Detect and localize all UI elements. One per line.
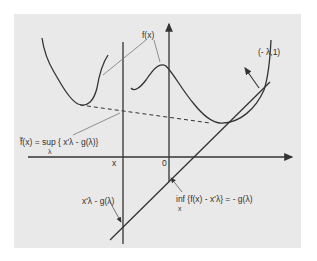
inf-formula: inf {f(x) - x'λ} = - g(λ) xyxy=(176,194,253,204)
conjugate-formula: f̃(x) = sup { x'λ - g(λ)} xyxy=(19,137,99,147)
dashed-connector xyxy=(80,105,210,123)
normal-vector-label: (- λ,1) xyxy=(258,47,280,57)
fx-curve-left xyxy=(42,38,108,105)
fx-curve-right xyxy=(131,40,271,123)
fx-leader-left xyxy=(103,40,146,75)
conjugate-leader xyxy=(73,113,120,135)
line-label: x'λ - g(λ) xyxy=(82,196,114,206)
origin-label: 0 xyxy=(162,158,167,168)
normal-vector-arrow xyxy=(245,68,259,88)
inf-label-leader xyxy=(171,178,182,192)
fx-leader-right xyxy=(154,40,160,62)
inf-sub-x: x xyxy=(178,205,182,212)
duality-diagram: f(x) (- λ,1) f̃(x) = sup { x'λ - g(λ)} λ… xyxy=(0,0,317,261)
fx-label: f(x) xyxy=(142,30,154,40)
conjugate-sub-lambda: λ xyxy=(48,148,52,155)
supporting-line xyxy=(110,82,270,240)
x-tick-label: x xyxy=(112,158,117,168)
